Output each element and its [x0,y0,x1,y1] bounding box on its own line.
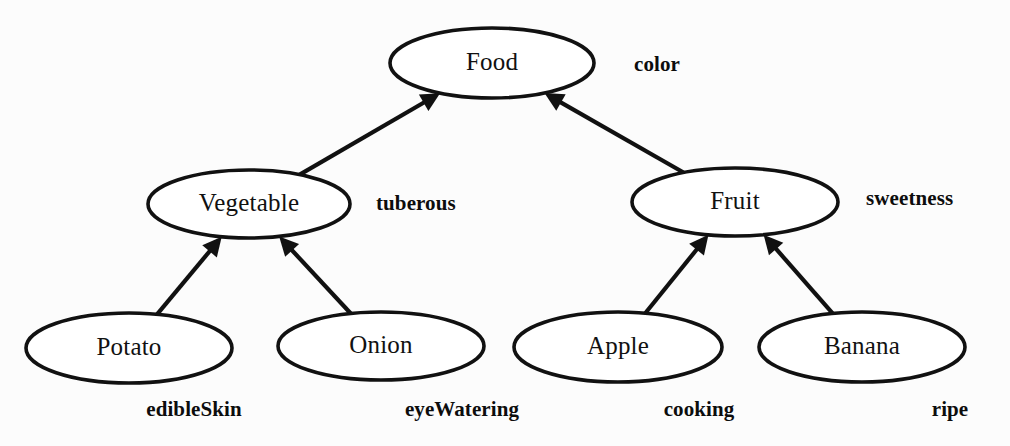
edge-potato-vegetable [157,247,213,314]
edge-vegetable-food [300,100,429,175]
node-fruit[interactable]: Fruit [632,168,838,236]
edge-banana-fruit [773,245,833,314]
node-food-label: Food [466,48,519,75]
node-potato[interactable]: Potato [26,313,232,383]
diagram-canvas: FoodVegetableFruitPotatoOnionAppleBanana… [0,0,1010,446]
attr-eyewatering: eyeWatering [405,397,520,421]
attr-cooking: cooking [664,397,735,421]
node-apple-label: Apple [587,332,649,359]
attr-ripe: ripe [932,397,969,421]
node-banana[interactable]: Banana [759,312,965,382]
attr-edibleskin: edibleSkin [146,397,242,421]
edge-apple-fruit [645,246,700,314]
hierarchy-diagram: FoodVegetableFruitPotatoOnionAppleBanana… [0,0,1010,446]
nodes-layer: FoodVegetableFruitPotatoOnionAppleBanana [26,28,965,383]
node-potato-label: Potato [96,333,161,360]
node-onion[interactable]: Onion [278,312,484,380]
attr-tuberous: tuberous [376,191,456,215]
node-apple[interactable]: Apple [514,312,722,382]
attr-color: color [634,52,680,76]
node-banana-label: Banana [824,332,900,359]
node-fruit-label: Fruit [710,187,760,214]
node-vegetable[interactable]: Vegetable [148,170,350,238]
node-food[interactable]: Food [390,28,594,98]
edge-fruit-food [556,100,683,173]
node-vegetable-label: Vegetable [199,189,299,216]
node-onion-label: Onion [349,331,413,358]
edge-onion-vegetable [288,246,350,313]
attr-sweetness: sweetness [866,186,953,210]
